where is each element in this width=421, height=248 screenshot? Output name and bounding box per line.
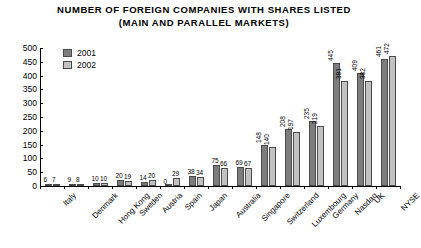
bar-2002 [197, 177, 204, 186]
bar-group: 445381 [332, 48, 349, 186]
x-tick-mark [64, 186, 65, 189]
bar-value-label: 219 [311, 113, 318, 124]
y-tick-label: 350 [2, 84, 37, 94]
bar-value-label: 67 [244, 160, 251, 167]
x-tick-mark [112, 186, 113, 189]
y-tick-label: 100 [2, 153, 37, 163]
y-tick-label: 200 [2, 126, 37, 136]
x-category-label: Japan [207, 191, 229, 213]
bar-group: 409382 [356, 48, 373, 186]
bar-2002 [221, 168, 228, 186]
chart-title-line-2: (MAIN AND PARALLEL MARKETS) [0, 17, 408, 30]
y-tick-label: 300 [2, 98, 37, 108]
bar-2001 [213, 165, 220, 186]
y-tick-label: 250 [2, 112, 37, 122]
bar-group: 1420 [140, 48, 157, 186]
x-tick-mark [184, 186, 185, 189]
bar-group: 7566 [212, 48, 229, 186]
bar-value-label: 75 [212, 157, 219, 164]
chart-title: NUMBER OF FOREIGN COMPANIES WITH SHARES … [0, 4, 408, 29]
bar-2002 [317, 126, 324, 186]
bar-group: 2019 [116, 48, 133, 186]
x-category-label: Spain [183, 191, 204, 212]
bar-2001 [189, 176, 196, 186]
bar-value-label: 19 [124, 173, 131, 180]
bar-value-label: 197 [287, 119, 294, 130]
bar-value-label: 34 [196, 169, 203, 176]
bar-value-label: 14 [140, 174, 147, 181]
x-tick-mark [160, 186, 161, 189]
bar-2001 [333, 63, 340, 186]
x-tick-mark [304, 186, 305, 189]
bar-2002 [245, 168, 252, 186]
x-category-label: Austria [160, 191, 184, 215]
x-tick-mark [352, 186, 353, 189]
x-tick-mark [256, 186, 257, 189]
bar-value-label: 472 [383, 43, 390, 54]
bar-2001 [357, 73, 364, 186]
bar-value-label: 29 [172, 170, 179, 177]
bar-group: 461472 [380, 48, 397, 186]
legend-swatch-icon [63, 49, 72, 57]
legend-label: 2001 [77, 49, 96, 58]
bar-value-label: 10 [92, 175, 99, 182]
x-axis-line [40, 186, 401, 187]
bar-value-label: 461 [375, 46, 382, 57]
bar-group: 67 [44, 48, 61, 186]
bar-value-label: 0 [164, 178, 168, 185]
bar-value-label: 69 [236, 159, 243, 166]
bar-group: 148140 [260, 48, 277, 186]
x-category-label: Australia [234, 191, 262, 219]
bar-2001 [261, 145, 268, 186]
bar-2002 [149, 180, 156, 186]
bar-2002 [365, 81, 372, 186]
bar-value-label: 409 [351, 60, 358, 71]
chart-title-line-1: NUMBER OF FOREIGN COMPANIES WITH SHARES … [0, 4, 408, 17]
x-tick-mark [232, 186, 233, 189]
x-tick-mark [40, 186, 41, 189]
bar-value-label: 445 [327, 50, 334, 61]
x-category-label: Italy [61, 191, 78, 208]
y-tick-label: 450 [2, 57, 37, 67]
x-tick-mark [328, 186, 329, 189]
bar-value-label: 208 [279, 116, 286, 127]
bar-2001 [309, 121, 316, 186]
bar-value-label: 66 [220, 160, 227, 167]
bar-value-label: 140 [263, 135, 270, 146]
bar-value-label: 20 [148, 172, 155, 179]
bar-2001 [237, 167, 244, 186]
bar-value-label: 10 [100, 175, 107, 182]
x-category-label: Denmark [91, 191, 120, 220]
bar-2001 [381, 59, 388, 186]
y-tick-label: 150 [2, 140, 37, 150]
bar-2002 [53, 184, 60, 186]
bar-value-label: 9 [68, 176, 72, 183]
bar-2002 [125, 181, 132, 186]
bar-value-label: 6 [44, 176, 48, 183]
bar-value-label: 38 [188, 168, 195, 175]
y-tick-label: 0 [2, 181, 37, 191]
bar-2001 [45, 184, 52, 186]
y-tick-label: 500 [2, 43, 37, 53]
x-category-label: NYSE [399, 191, 421, 213]
bar-value-label: 235 [303, 108, 310, 119]
x-tick-mark [88, 186, 89, 189]
bar-group: 3834 [188, 48, 205, 186]
bar-2001 [93, 183, 100, 186]
legend-item: 2001 [63, 48, 96, 58]
bar-value-label: 8 [76, 176, 80, 183]
y-tick-label: 400 [2, 71, 37, 81]
x-tick-mark [376, 186, 377, 189]
bar-group: 6967 [236, 48, 253, 186]
bar-value-label: 7 [52, 176, 56, 183]
bar-value-label: 382 [359, 68, 366, 79]
chart-legend: 20012002 [63, 48, 96, 72]
bar-group: 029 [164, 48, 181, 186]
bar-value-label: 381 [335, 68, 342, 79]
bar-2002 [389, 56, 396, 186]
bar-2001 [69, 184, 76, 186]
bar-2001 [141, 182, 148, 186]
bar-2002 [269, 147, 276, 186]
x-tick-mark [208, 186, 209, 189]
